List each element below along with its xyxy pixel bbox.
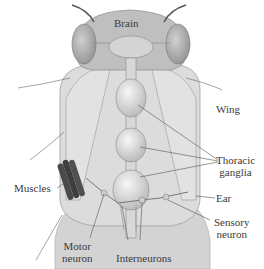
label-sensory-line1: Sensory xyxy=(214,216,249,228)
label-thoracic-line2: ganglia xyxy=(216,166,255,178)
ganglion-2 xyxy=(116,128,146,162)
label-ear: Ear xyxy=(216,192,231,204)
label-thoracic-line1: Thoracic xyxy=(216,154,255,166)
label-interneurons: Interneurons xyxy=(116,252,172,264)
ganglion-1 xyxy=(116,79,146,117)
eye-right xyxy=(166,24,190,64)
brain-lobe xyxy=(109,36,153,58)
label-brain: Brain xyxy=(114,17,138,29)
label-motor-line1: Motor xyxy=(62,240,93,252)
eye-left xyxy=(72,24,96,64)
label-muscles: Muscles xyxy=(14,182,51,194)
label-motor-neuron: Motor neuron xyxy=(62,240,93,264)
ganglion-3 xyxy=(113,170,149,210)
label-sensory-neuron: Sensory neuron xyxy=(214,216,249,240)
label-sensory-line2: neuron xyxy=(214,228,249,240)
label-wing: Wing xyxy=(216,103,240,115)
label-thoracic-ganglia: Thoracic ganglia xyxy=(216,154,255,178)
label-motor-line2: neuron xyxy=(62,252,93,264)
